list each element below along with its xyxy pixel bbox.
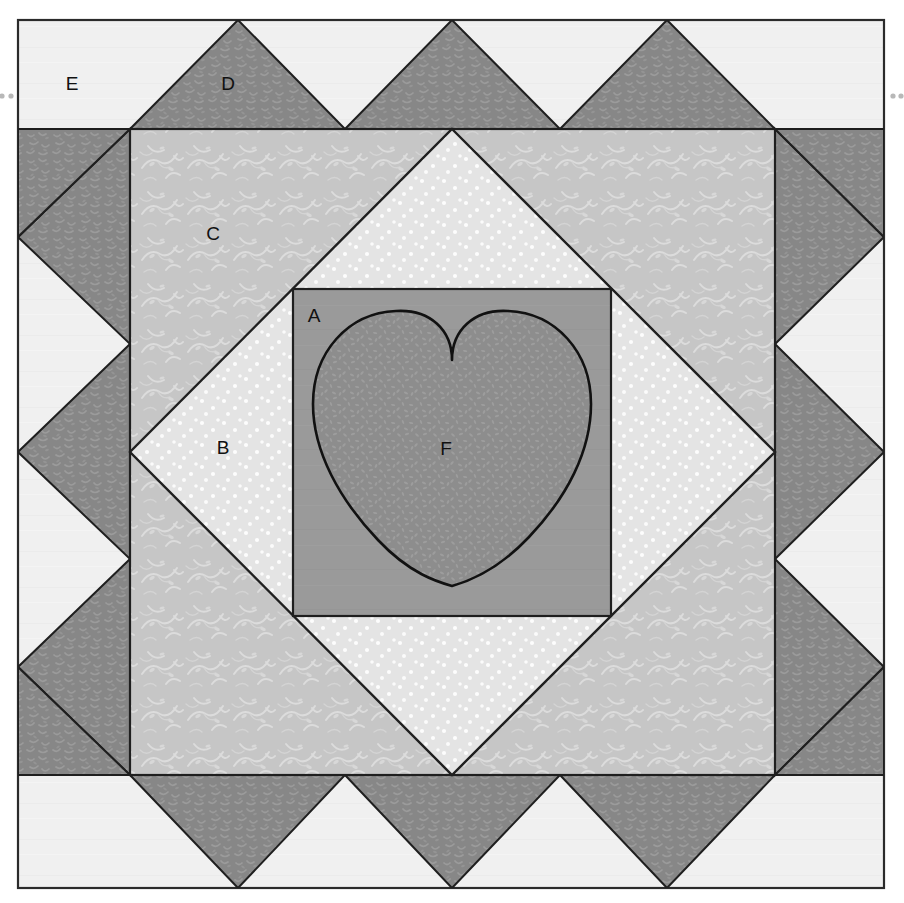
seam-allowance-dots-right	[890, 93, 903, 98]
quilt-block-svg: E D C B A F	[0, 0, 904, 903]
seam-allowance-dots-left	[0, 93, 14, 98]
quilt-diagram-canvas: E D C B A F	[0, 0, 904, 903]
